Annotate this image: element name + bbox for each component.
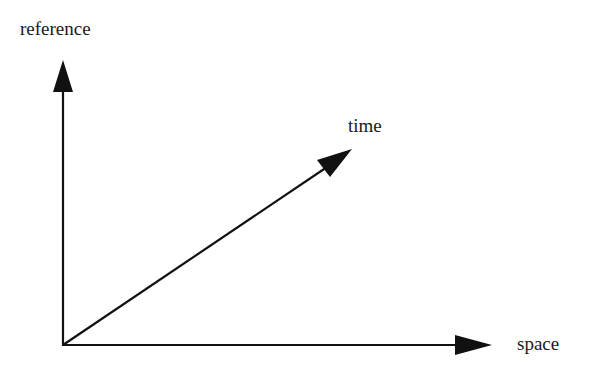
reference-arrowhead-icon <box>53 60 73 92</box>
space-label: space <box>517 333 559 355</box>
time-axis-line <box>63 165 330 345</box>
time-arrowhead-icon <box>317 149 352 177</box>
space-arrowhead-icon <box>455 335 492 355</box>
reference-label: reference <box>20 18 91 40</box>
axes-svg <box>0 0 604 383</box>
axes-diagram: reference time space <box>0 0 604 383</box>
time-label: time <box>348 115 382 137</box>
